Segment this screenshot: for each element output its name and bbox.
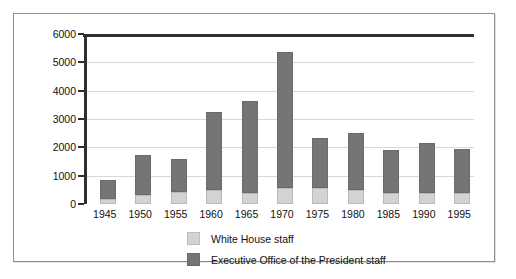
- bar-group[interactable]: [242, 101, 258, 204]
- bar-segment-executive-office-staff[interactable]: [242, 101, 258, 193]
- x-axis-tick-label: 1975: [300, 208, 335, 220]
- bar-segment-white-house-staff[interactable]: [242, 193, 258, 204]
- bar-group[interactable]: [312, 138, 328, 204]
- y-axis-tick-label: 0: [70, 199, 76, 209]
- legend-label: White House staff: [211, 233, 294, 245]
- bar-segment-white-house-staff[interactable]: [135, 195, 151, 204]
- y-axis-tick-label: 4000: [53, 86, 76, 96]
- x-axis-labels: 1945195019551960196519701975198019851990…: [87, 208, 474, 224]
- y-axis-tick-label: 5000: [53, 57, 76, 67]
- x-axis-tick-label: 1960: [193, 208, 228, 220]
- bar-segment-executive-office-staff[interactable]: [277, 52, 293, 187]
- bar-group[interactable]: [348, 133, 364, 204]
- bar-segment-white-house-staff[interactable]: [206, 190, 222, 204]
- x-axis-tick-label: 1965: [229, 208, 264, 220]
- bar-group[interactable]: [277, 52, 293, 204]
- bar-segment-executive-office-staff[interactable]: [206, 112, 222, 190]
- bar-segment-white-house-staff[interactable]: [348, 190, 364, 204]
- x-axis-tick-label: 1980: [335, 208, 370, 220]
- legend-item[interactable]: Executive Office of the President staff: [187, 251, 386, 268]
- y-axis-tick: [78, 118, 84, 120]
- bar-group[interactable]: [206, 112, 222, 204]
- y-axis-tick: [78, 203, 84, 205]
- bar-segment-white-house-staff[interactable]: [171, 192, 187, 204]
- y-axis-tick-label: 6000: [53, 29, 76, 39]
- chart-frame: 6000500040003000200010000 19451950195519…: [13, 13, 495, 262]
- bar-segment-executive-office-staff[interactable]: [312, 138, 328, 188]
- bar-group[interactable]: [454, 149, 470, 204]
- y-axis-tick: [78, 33, 84, 35]
- bar-segment-executive-office-staff[interactable]: [419, 143, 435, 193]
- x-axis-tick-label: 1950: [122, 208, 157, 220]
- bar-segment-executive-office-staff[interactable]: [454, 149, 470, 192]
- bar-series-container: [87, 34, 474, 204]
- x-axis-line: [83, 34, 474, 37]
- bar-segment-white-house-staff[interactable]: [277, 188, 293, 204]
- bar-group[interactable]: [171, 159, 187, 204]
- bar-group[interactable]: [383, 150, 399, 204]
- plot-area: [84, 34, 474, 204]
- bar-segment-executive-office-staff[interactable]: [135, 155, 151, 195]
- bar-segment-executive-office-staff[interactable]: [100, 180, 116, 199]
- bar-segment-white-house-staff[interactable]: [454, 193, 470, 204]
- bar-segment-white-house-staff[interactable]: [419, 193, 435, 204]
- x-axis-tick-label: 1945: [87, 208, 122, 220]
- legend-label: Executive Office of the President staff: [211, 254, 386, 266]
- x-axis-tick-label: 1990: [406, 208, 441, 220]
- y-axis-labels: 6000500040003000200010000: [14, 34, 76, 204]
- legend-swatch-icon: [187, 253, 200, 266]
- chart-legend: White House staffExecutive Office of the…: [187, 230, 386, 272]
- y-axis-tick: [78, 61, 84, 63]
- bar-group[interactable]: [419, 143, 435, 204]
- bar-segment-executive-office-staff[interactable]: [348, 133, 364, 190]
- legend-swatch-icon: [187, 232, 200, 245]
- y-axis-tick: [78, 146, 84, 148]
- bar-segment-executive-office-staff[interactable]: [383, 150, 399, 193]
- x-axis-tick-label: 1985: [371, 208, 406, 220]
- bar-segment-white-house-staff[interactable]: [383, 193, 399, 204]
- y-axis-tick-label: 2000: [53, 142, 76, 152]
- x-axis-tick-label: 1995: [442, 208, 477, 220]
- y-axis-tick: [78, 175, 84, 177]
- bar-segment-white-house-staff[interactable]: [312, 188, 328, 204]
- y-axis-tick: [78, 90, 84, 92]
- legend-item[interactable]: White House staff: [187, 230, 386, 247]
- bar-segment-white-house-staff[interactable]: [100, 199, 116, 204]
- y-axis-tick-label: 3000: [53, 114, 76, 124]
- bar-group[interactable]: [135, 155, 151, 204]
- x-axis-tick-label: 1955: [158, 208, 193, 220]
- y-axis-tick-label: 1000: [53, 171, 76, 181]
- x-axis-tick-label: 1970: [264, 208, 299, 220]
- bar-segment-executive-office-staff[interactable]: [171, 159, 187, 192]
- bar-group[interactable]: [100, 180, 116, 204]
